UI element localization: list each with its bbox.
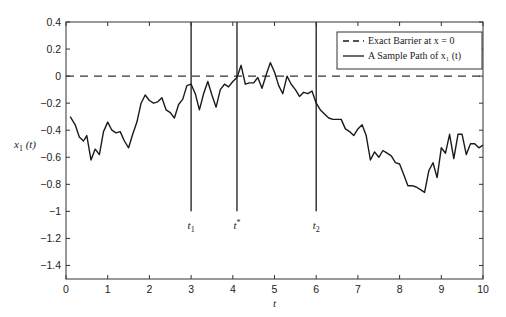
x-tick-label: 1 [105,283,111,295]
sample-path-line [70,63,483,193]
vertical-marker-label: t2 [313,219,320,234]
legend-entry-label: Exact Barrier at x = 0 [368,35,454,46]
x-tick-label: 10 [477,283,489,295]
x-tick-label: 6 [313,283,319,295]
x-tick-label: 8 [397,283,403,295]
y-tick-label: 0.2 [46,43,61,55]
y-tick-label: 0.4 [46,16,61,28]
y-tick-label: −0.6 [40,151,61,163]
x-tick-label: 3 [188,283,194,295]
x-tick-label: 7 [355,283,361,295]
y-tick-label: −0.4 [40,124,61,136]
x-tick-label: 2 [146,283,152,295]
y-tick-label: −0.2 [40,97,61,109]
y-tick-label: 0 [55,70,61,82]
vertical-marker-label: t* [233,218,240,231]
vertical-marker-label: t1 [188,219,195,234]
x-tick-label: 4 [230,283,236,295]
y-tick-label: −1 [49,205,61,217]
x-axis-label: t [273,297,277,309]
y-tick-label: −1.2 [40,232,61,244]
chart: 0123456789100.40.20−0.2−0.4−0.6−0.8−1−1.… [0,0,506,317]
x-tick-label: 5 [272,283,278,295]
x-tick-label: 9 [438,283,444,295]
y-axis-label: x1 (t) [13,138,36,153]
legend-entry-label: A Sample Path of x₁ (t) [368,50,461,62]
x-tick-label: 0 [63,283,69,295]
y-tick-label: −1.4 [40,259,61,271]
legend: Exact Barrier at x = 0A Sample Path of x… [337,32,482,69]
y-tick-label: −0.8 [40,178,61,190]
